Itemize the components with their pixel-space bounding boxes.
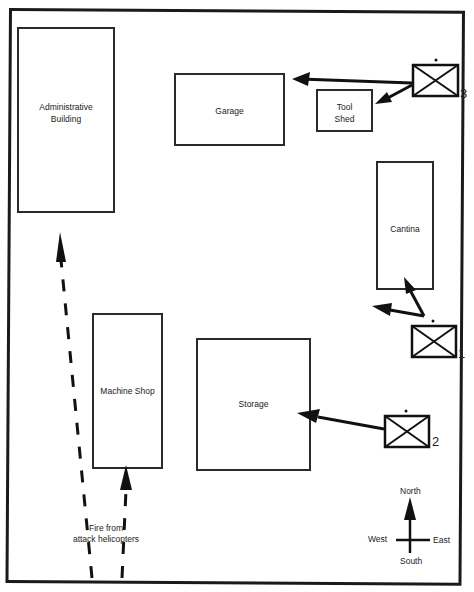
helicopter-fire-label: Fire from attack helicopters bbox=[66, 523, 146, 545]
unit-3-symbol bbox=[413, 59, 458, 97]
fire-arrow-unit3-toolshed bbox=[375, 85, 412, 104]
unit-2-symbol bbox=[385, 410, 429, 448]
fire-arrow-unit2-storage bbox=[297, 409, 384, 429]
fire-arrow-unit1-west bbox=[372, 303, 424, 316]
unit-2-number: 2 bbox=[432, 434, 439, 449]
fire-arrow-unit3-garage bbox=[292, 72, 412, 86]
unit-1-number: 1 bbox=[458, 346, 465, 361]
compass-rose bbox=[396, 497, 430, 553]
unit-3-number: 3 bbox=[460, 86, 467, 101]
helicopter-fire-line2: attack helicopters bbox=[73, 534, 139, 544]
helicopter-fire-line-right bbox=[120, 465, 132, 578]
compass-south-label: South bbox=[400, 556, 422, 566]
fire-arrow-unit1-cantina bbox=[404, 277, 424, 316]
north-arrow-icon bbox=[404, 497, 416, 520]
compass-east-label: East bbox=[433, 535, 450, 545]
compass-north-label: North bbox=[400, 486, 421, 496]
unit-1-symbol bbox=[412, 320, 456, 358]
diagram-overlay bbox=[0, 0, 474, 592]
helicopter-fire-line1: Fire from bbox=[89, 523, 123, 533]
compass-west-label: West bbox=[368, 534, 387, 544]
